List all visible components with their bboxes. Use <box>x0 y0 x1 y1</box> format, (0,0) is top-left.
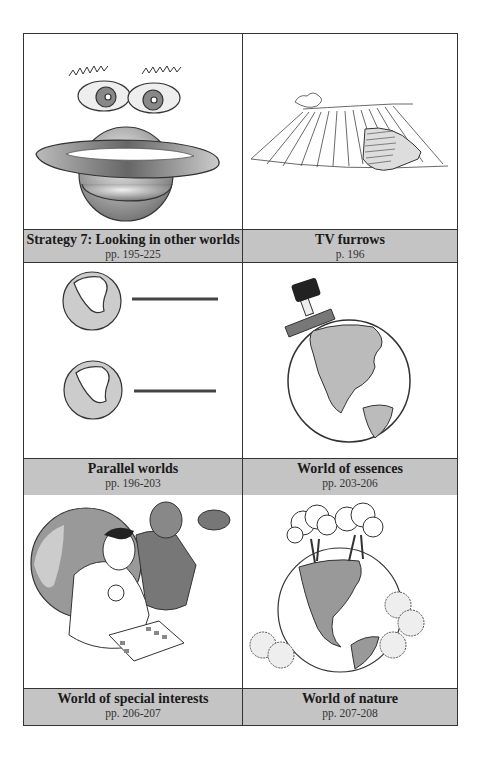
page-reference: pp. 207-208 <box>243 707 457 720</box>
page-reference: pp. 196-203 <box>24 477 242 490</box>
page-reference: pp. 203-206 <box>243 477 457 490</box>
caption-bar: TV furrows p. 196 <box>243 229 457 263</box>
caption-bar: World of essences pp. 203-206 <box>243 458 457 496</box>
saturn-eyes-illustration <box>24 34 242 229</box>
panel-title: World of essences <box>243 459 457 477</box>
caption-bar: World of special interests pp. 206-207 <box>24 688 242 726</box>
page-reference: p. 196 <box>243 248 457 261</box>
panel-title: Parallel worlds <box>24 459 242 477</box>
panel-looking-in-other-worlds: Strategy 7: Looking in other worlds pp. … <box>24 34 242 262</box>
panel-world-of-essences: World of essences pp. 203-206 <box>243 263 457 495</box>
collector-football-icon <box>24 495 242 688</box>
caption-bar: World of nature pp. 207-208 <box>243 688 457 726</box>
page-reference: pp. 195-225 <box>24 248 242 261</box>
world-of-nature-illustration <box>243 495 457 688</box>
special-interests-illustration <box>24 495 242 688</box>
panel-title: World of special interests <box>24 689 242 707</box>
tv-field-icon <box>243 34 457 229</box>
globe-stamp-icon <box>243 263 457 458</box>
panel-title: Strategy 7: Looking in other worlds <box>24 230 242 248</box>
panel-title: World of nature <box>243 689 457 707</box>
two-globes-icon <box>24 263 242 458</box>
parallel-worlds-illustration <box>24 263 242 458</box>
tv-furrows-illustration <box>243 34 457 229</box>
panel-tv-furrows: TV furrows p. 196 <box>243 34 457 262</box>
panel-parallel-worlds: Parallel worlds pp. 196-203 <box>24 263 242 495</box>
caption-bar: Strategy 7: Looking in other worlds pp. … <box>24 229 242 263</box>
world-of-essences-illustration <box>243 263 457 458</box>
panel-title: TV furrows <box>243 230 457 248</box>
saturn-icon <box>24 34 242 229</box>
globe-trees-icon <box>243 495 457 688</box>
illustration-grid: Strategy 7: Looking in other worlds pp. … <box>23 33 458 726</box>
page-reference: pp. 206-207 <box>24 707 242 720</box>
panel-world-of-special-interests: World of special interests pp. 206-207 <box>24 495 242 726</box>
caption-bar: Parallel worlds pp. 196-203 <box>24 458 242 496</box>
panel-world-of-nature: World of nature pp. 207-208 <box>243 495 457 726</box>
